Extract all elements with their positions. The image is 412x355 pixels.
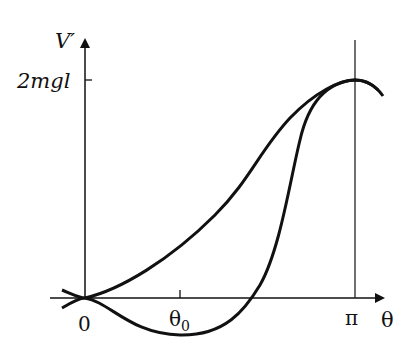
x-axis-label: θ (381, 308, 394, 332)
x-tick-label-theta0: θ0 (169, 307, 190, 334)
curve-monotonic (62, 80, 383, 308)
y-axis-label: V′ (55, 29, 75, 53)
x-tick-label-origin: 0 (78, 312, 91, 336)
potential-diagram: V′ 2mgl 0 θ0 π θ (0, 0, 412, 355)
y-tick-label-2mgl: 2mgl (16, 69, 70, 93)
curve-with-minimum (62, 80, 378, 335)
x-tick-label-pi: π (345, 306, 358, 330)
